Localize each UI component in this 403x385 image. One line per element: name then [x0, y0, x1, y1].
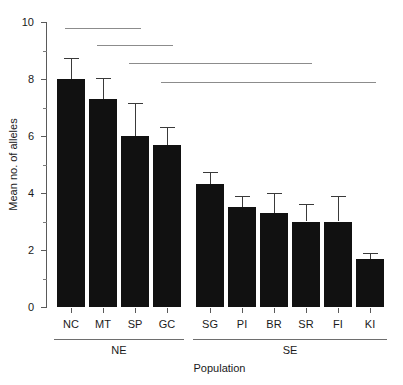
- y-tick-major: 6: [41, 136, 47, 137]
- y-tick-minor: [43, 108, 47, 109]
- x-tick: [242, 308, 243, 313]
- x-tick: [370, 308, 371, 313]
- error-bar-stem: [274, 193, 275, 213]
- bar: [228, 207, 256, 307]
- significance-line: [161, 82, 376, 83]
- y-tick-label: 8: [28, 74, 34, 85]
- scan-artifact-strip: [0, 0, 403, 9]
- x-tick: [306, 308, 307, 313]
- x-tick: [71, 308, 72, 313]
- plot-area: 0246810 NCMTSPGCSGPIBRSRFIKI NESE: [46, 22, 393, 307]
- x-tick: [210, 308, 211, 313]
- y-tick-major: 0: [41, 307, 47, 308]
- y-tick-major: 8: [41, 79, 47, 80]
- x-tick: [338, 308, 339, 313]
- error-bar-cap: [267, 193, 282, 194]
- error-bar-stem: [103, 78, 104, 99]
- y-tick-label: 6: [28, 131, 34, 142]
- error-bar-stem: [167, 127, 168, 144]
- x-tick: [274, 308, 275, 313]
- bar: [57, 79, 85, 307]
- x-tick: [167, 308, 168, 313]
- error-bar-stem: [210, 172, 211, 185]
- y-tick-major: 4: [41, 193, 47, 194]
- y-tick-label: 4: [28, 188, 34, 199]
- bar: [121, 136, 149, 307]
- bar: [153, 145, 181, 307]
- error-bar-stem: [71, 58, 72, 79]
- error-bar-cap: [128, 103, 143, 104]
- y-axis-title: Mean no. of alleles: [4, 22, 22, 307]
- group-label-ne: NE: [54, 344, 184, 357]
- y-tick-minor: [43, 165, 47, 166]
- error-bar-cap: [235, 196, 250, 197]
- y-tick-label: 0: [28, 302, 34, 313]
- error-bar-cap: [299, 204, 314, 205]
- error-bar-cap: [363, 253, 378, 254]
- bar-chart-figure: Mean no. of alleles 0246810 NCMTSPGCSGPI…: [0, 0, 403, 385]
- error-bar-cap: [331, 196, 346, 197]
- group-label-se: SE: [193, 344, 387, 357]
- bar: [89, 99, 117, 307]
- y-tick-minor: [43, 51, 47, 52]
- bar: [292, 222, 320, 308]
- x-tick-label-gc: GC: [147, 318, 187, 331]
- x-tick: [135, 308, 136, 313]
- x-tick-label-ki: KI: [350, 318, 390, 331]
- bar: [324, 222, 352, 308]
- significance-line: [97, 45, 173, 46]
- group-rule: [54, 339, 184, 340]
- bar: [196, 184, 224, 307]
- bar: [356, 259, 384, 307]
- error-bar-cap: [203, 172, 218, 173]
- x-tick: [103, 308, 104, 313]
- error-bar-stem: [338, 196, 339, 222]
- group-rule: [193, 339, 387, 340]
- error-bar-cap: [64, 58, 79, 59]
- error-bar-cap: [96, 78, 111, 79]
- y-tick-major: 10: [41, 22, 47, 23]
- y-tick-minor: [43, 222, 47, 223]
- error-bar-stem: [135, 103, 136, 136]
- error-bar-cap: [160, 127, 175, 128]
- y-tick-minor: [43, 279, 47, 280]
- error-bar-stem: [306, 204, 307, 221]
- y-tick-major: 2: [41, 250, 47, 251]
- significance-line: [129, 63, 312, 64]
- bar: [260, 213, 288, 307]
- error-bar-stem: [242, 196, 243, 207]
- significance-line: [65, 28, 141, 29]
- y-tick-label: 10: [22, 17, 34, 28]
- x-axis-title: Population: [46, 362, 393, 375]
- y-tick-label: 2: [28, 245, 34, 256]
